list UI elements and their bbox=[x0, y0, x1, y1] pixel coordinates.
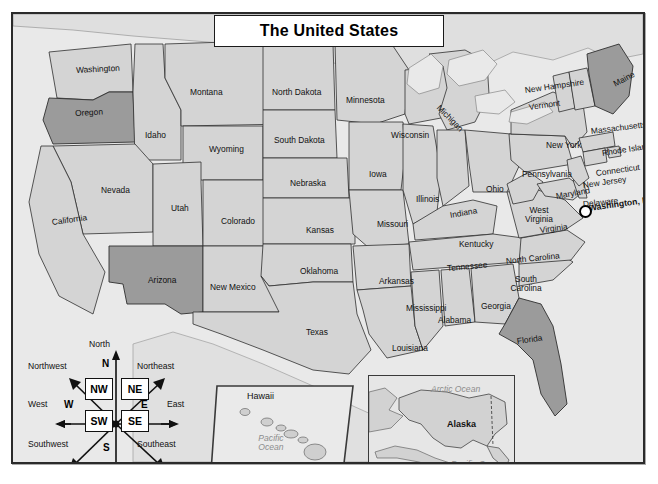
state-label-oklahoma: Oklahoma bbox=[300, 267, 338, 276]
state-label-iowa: Iowa bbox=[369, 170, 387, 179]
compass-direction-north: North bbox=[89, 339, 110, 349]
state-label-ohio: Ohio bbox=[486, 185, 504, 194]
compass-direction-northeast: Northeast bbox=[137, 361, 174, 371]
state-label-missouri: Missouri bbox=[377, 220, 408, 229]
state-label-nevada: Nevada bbox=[101, 186, 130, 195]
state-label-kansas: Kansas bbox=[306, 226, 334, 235]
state-label-west-virginia: West Virginia bbox=[518, 206, 560, 223]
map-title-text: The United States bbox=[260, 22, 399, 40]
map-frame: .land{fill:#d4d4d4;stroke:#2f2f2f;stroke… bbox=[11, 12, 645, 464]
hawaii-label: Hawaii bbox=[247, 392, 274, 401]
compass-box-ne[interactable]: NE bbox=[121, 378, 149, 400]
state-label-idaho: Idaho bbox=[145, 131, 166, 140]
compass-direction-southwest: Southwest bbox=[28, 439, 68, 449]
state-label-minnesota: Minnesota bbox=[346, 96, 385, 105]
compass-letter-e: E bbox=[141, 399, 148, 410]
state-label-new-mexico: New Mexico bbox=[210, 283, 256, 292]
compass-direction-northwest: Northwest bbox=[28, 361, 67, 371]
state-label-pennsylvania: Pennsylvania bbox=[522, 170, 572, 179]
compass-rose: NWNESWSE NSWE NorthSouthWestEastNorthwes… bbox=[27, 336, 205, 464]
alaska-pacific-ocean-label: Pacific Ocean bbox=[451, 460, 504, 464]
state-label-illinois: Illinois bbox=[416, 195, 439, 204]
compass-direction-southeast: Southeast bbox=[137, 439, 176, 449]
compass-box-nw[interactable]: NW bbox=[85, 378, 113, 400]
compass-box-sw[interactable]: SW bbox=[85, 410, 113, 432]
state-label-utah: Utah bbox=[171, 204, 189, 213]
state-label-georgia: Georgia bbox=[481, 302, 511, 311]
state-label-new-york: New York bbox=[546, 141, 581, 150]
state-label-wisconsin: Wisconsin bbox=[391, 131, 429, 140]
compass-direction-west: West bbox=[28, 399, 47, 409]
map-title: The United States bbox=[214, 15, 444, 47]
hawaii-inset: Hawaii Pacific Ocean bbox=[209, 382, 361, 464]
state-label-texas: Texas bbox=[306, 328, 328, 337]
compass-direction-east: East bbox=[167, 399, 184, 409]
state-label-arizona: Arizona bbox=[148, 276, 176, 285]
state-label-kentucky: Kentucky bbox=[459, 240, 493, 249]
state-label-alabama: Alabama bbox=[438, 316, 471, 325]
compass-letter-s: S bbox=[103, 442, 110, 453]
alaska-arctic-ocean-label: Arctic Ocean bbox=[431, 385, 480, 394]
state-label-south-carolina: South Carolina bbox=[505, 275, 547, 292]
compass-letter-n: N bbox=[102, 358, 109, 369]
map-page: .land{fill:#d4d4d4;stroke:#2f2f2f;stroke… bbox=[0, 0, 658, 484]
alaska-label: Alaska bbox=[447, 420, 476, 429]
state-label-north-dakota: North Dakota bbox=[272, 88, 321, 97]
alaska-inset: Arctic Ocean Alaska Pacific Ocean bbox=[368, 375, 515, 464]
washington-dc-marker[interactable] bbox=[579, 205, 592, 218]
hawaii-pacific-ocean-label: Pacific Ocean bbox=[251, 434, 291, 452]
state-label-wyoming: Wyoming bbox=[209, 145, 244, 154]
state-label-arkansas: Arkansas bbox=[379, 277, 414, 286]
state-label-oregon: Oregon bbox=[75, 108, 103, 118]
state-label-mississippi: Mississippi bbox=[406, 304, 447, 313]
compass-letter-w: W bbox=[64, 399, 73, 410]
state-label-montana: Montana bbox=[190, 88, 223, 97]
state-label-south-dakota: South Dakota bbox=[274, 136, 325, 145]
compass-box-se[interactable]: SE bbox=[121, 410, 149, 432]
state-label-colorado: Colorado bbox=[221, 217, 255, 226]
state-label-louisiana: Louisiana bbox=[392, 344, 428, 353]
state-label-nebraska: Nebraska bbox=[290, 179, 326, 188]
